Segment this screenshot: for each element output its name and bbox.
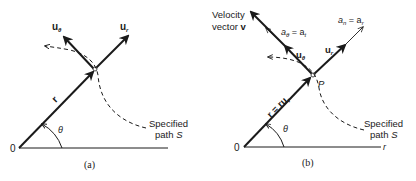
panel-a: 0 uθ ur r θ Specified path S (a)	[10, 21, 188, 171]
a-theta-label: aθ = at	[281, 27, 307, 38]
a-n-vector	[345, 27, 363, 45]
path-label-b-line2: path S	[370, 129, 398, 140]
velocity-label-line1: Velocity	[212, 9, 245, 20]
position-label-b: r = rur	[264, 93, 292, 121]
path-label-a-line1: Specified	[149, 118, 188, 129]
unit-r-label-b: ur	[325, 44, 334, 56]
specified-path-a	[45, 46, 146, 128]
a-theta-vector	[266, 28, 280, 41]
path-label-a-line2: path S	[155, 129, 183, 140]
theta-label-a: θ	[58, 125, 63, 135]
origin-label-a: 0	[10, 143, 16, 154]
unit-r-label-a: ur	[120, 21, 129, 33]
velocity-label-line2: vector v	[212, 21, 247, 32]
caption-b: (b)	[302, 157, 314, 169]
path-label-b-line1: Specified	[364, 118, 403, 129]
polar-coordinates-diagram: 0 uθ ur r θ Specified path S (a)	[0, 0, 416, 181]
panel-b: Velocity vector v aθ = at an = ar uθ ur …	[212, 9, 403, 169]
caption-a: (a)	[84, 159, 95, 171]
a-n-label: an = ar	[338, 15, 365, 26]
position-label-a: r	[49, 94, 60, 105]
point-p-label: P	[318, 78, 325, 89]
axis-r-label-b: r	[383, 142, 387, 152]
unit-theta-label-a: uθ	[52, 21, 62, 33]
point-p-marker-a	[93, 67, 97, 71]
unit-r-vector-a	[95, 36, 128, 69]
theta-label-b: θ	[283, 124, 288, 134]
specified-path-b	[268, 57, 364, 130]
unit-theta-label-b: uθ	[296, 49, 306, 61]
theta-arc-b	[266, 124, 284, 147]
origin-label-b: 0	[234, 142, 240, 153]
